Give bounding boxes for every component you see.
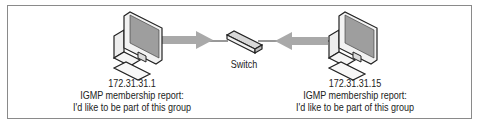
host-label-left: 172.31.31.1 IGMP membership report: I'd …	[72, 77, 192, 113]
switch-icon	[227, 31, 262, 53]
host-ip: 172.31.31.15	[295, 77, 415, 89]
arrow-right-icon	[160, 31, 213, 49]
message-title: IGMP membership report:	[72, 89, 192, 101]
message-body: I'd like to be part of this group	[72, 101, 192, 113]
host-ip: 172.31.31.1	[72, 77, 192, 89]
message-body: I'd like to be part of this group	[295, 101, 415, 113]
computer-icon-left	[114, 12, 162, 80]
host-label-right: 172.31.31.15 IGMP membership report: I'd…	[295, 77, 415, 113]
message-title: IGMP membership report:	[295, 89, 415, 101]
switch-label: Switch	[227, 58, 261, 70]
arrow-left-icon	[275, 32, 328, 50]
computer-icon-right	[329, 12, 377, 80]
